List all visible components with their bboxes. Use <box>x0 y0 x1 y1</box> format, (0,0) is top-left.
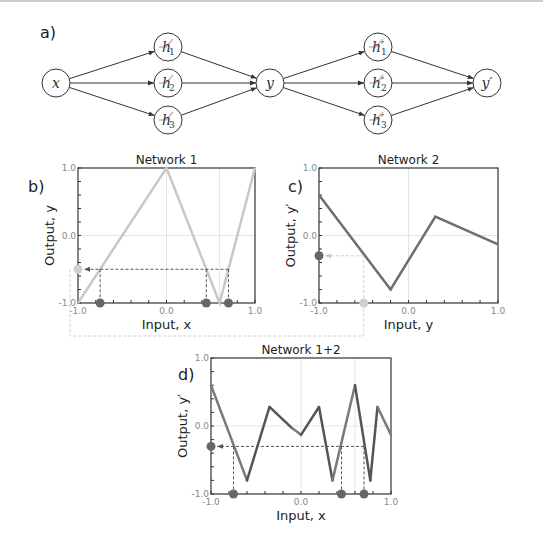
input-point <box>229 490 238 499</box>
y-tick-label: 0.0 <box>303 231 318 241</box>
node-h3: h3 <box>154 106 182 134</box>
y-tick-label: -1.0 <box>299 298 317 308</box>
y-tick-label: 1.0 <box>195 353 210 363</box>
node-hp1: h′1 <box>364 33 392 61</box>
input-point <box>202 299 211 308</box>
node-hp3: h′3 <box>364 106 392 134</box>
x-axis-label: Input, x <box>142 317 192 332</box>
node-x: x <box>42 69 70 97</box>
panel-label-b: b) <box>28 177 44 196</box>
node-h1: h1 <box>154 33 182 61</box>
svg-text:1: 1 <box>169 47 175 57</box>
plot-title: Network 1+2 <box>261 343 340 357</box>
x-tick-label: 0.0 <box>401 306 416 316</box>
x-tick-label: 0.0 <box>159 306 174 316</box>
panel-label-d: d) <box>178 365 194 384</box>
x-tick-label: 1.0 <box>384 497 399 507</box>
node-yp: y′ <box>473 69 501 97</box>
input-point <box>360 490 369 499</box>
output-point <box>315 251 324 260</box>
network-1-2-segment <box>355 385 370 480</box>
svg-text:2: 2 <box>169 83 175 93</box>
y-axis-label: Output, y′ <box>175 394 190 458</box>
panel-label-c: c) <box>288 177 303 196</box>
plot-title: Network 2 <box>378 153 440 167</box>
edge-hp3-yp <box>391 88 473 116</box>
y-tick-label: 1.0 <box>62 163 77 173</box>
y-tick-label: 0.0 <box>62 231 77 241</box>
svg-text:y: y <box>265 75 275 91</box>
figure-canvas: a)b)c)d)xh1h2h3yh′1h′2h′3y′-1.0-1.00.00.… <box>0 0 543 545</box>
x-tick-label: 1.0 <box>491 306 506 316</box>
x-tick-label: 1.0 <box>248 306 263 316</box>
input-point <box>337 490 346 499</box>
edge-x-h3 <box>69 87 154 115</box>
y-tick-label: 1.0 <box>303 163 318 173</box>
y-axis-label: Output, y′ <box>283 203 298 267</box>
output-point <box>207 442 216 451</box>
y-tick-label: -1.0 <box>58 298 76 308</box>
figure: a)b)c)d)xh1h2h3yh′1h′2h′3y′-1.0-1.00.00.… <box>0 0 543 545</box>
network-1-2-segment <box>319 407 333 480</box>
x-axis-label: Input, x <box>276 508 326 523</box>
svg-text:2: 2 <box>381 83 387 93</box>
edge-h1-y <box>181 52 257 79</box>
svg-text:1: 1 <box>381 47 387 57</box>
network-1-2-plot: -1.0-1.00.00.01.01.0Network 1+2Input, xO… <box>175 343 398 523</box>
x-tick-label: 0.0 <box>294 497 309 507</box>
network-1-2-segment <box>370 407 377 480</box>
node-hp2: h′2 <box>364 69 392 97</box>
input-point <box>96 299 105 308</box>
network-1-2-segment <box>211 385 247 480</box>
x-axis-label: Input, y <box>384 317 434 332</box>
edge-h3-y <box>181 88 257 115</box>
output-point <box>74 265 83 274</box>
node-h2: h2 <box>154 69 182 97</box>
network-1-2-segment <box>333 385 356 480</box>
network-1-2-segment <box>292 428 301 435</box>
input-point <box>224 299 233 308</box>
y-axis-label: Output, y <box>42 205 57 266</box>
network-2-plot: -1.0-1.00.00.01.01.0Network 2Input, yOut… <box>283 153 505 332</box>
y-tick-label: -1.0 <box>191 489 209 499</box>
input-point <box>359 299 368 308</box>
network-1-2-segment <box>247 407 270 480</box>
svg-text:3: 3 <box>169 120 175 130</box>
edge-y-hp3 <box>283 88 365 116</box>
network-1-2-segment <box>270 407 293 428</box>
network-1-plot: -1.0-1.00.00.01.01.0Network 1Input, xOut… <box>42 153 262 332</box>
network-1-2-segment <box>301 407 319 435</box>
panel-label-a: a) <box>40 23 56 42</box>
plot-title: Network 1 <box>136 153 198 167</box>
svg-text:x: x <box>52 75 60 91</box>
edge-hp1-yp <box>391 51 473 78</box>
svg-text:y′: y′ <box>480 75 493 91</box>
edge-x-h1 <box>69 51 154 78</box>
y-tick-label: 0.0 <box>195 421 210 431</box>
svg-text:3: 3 <box>381 120 387 130</box>
edge-y-hp1 <box>283 51 364 78</box>
network-1-2-segment <box>378 407 392 435</box>
node-y: y <box>256 69 284 97</box>
